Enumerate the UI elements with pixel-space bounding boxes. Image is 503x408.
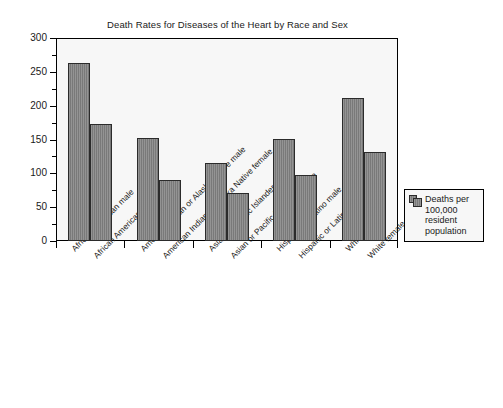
x-axis-labels: African American maleAfrican American fe… <box>0 241 503 408</box>
bar <box>159 180 181 241</box>
bar <box>205 163 227 241</box>
bar <box>68 63 90 241</box>
bar <box>227 193 249 241</box>
y-axis-tick-label: 150 <box>7 135 47 145</box>
bar <box>90 124 112 241</box>
bar <box>342 98 364 241</box>
bar <box>295 175 317 241</box>
bar-swatch-icon <box>409 195 422 207</box>
legend: Deaths per 100,000 resident population <box>404 189 484 242</box>
legend-label: Deaths per 100,000 resident population <box>425 194 469 236</box>
bars-layer <box>56 38 398 241</box>
y-axis-tick-label: 300 <box>7 33 47 43</box>
y-axis-tick-label: 100 <box>7 168 47 178</box>
y-axis-tick-label: 50 <box>7 202 47 212</box>
chart-title: Death Rates for Diseases of the Heart by… <box>56 19 399 31</box>
bar <box>137 138 159 241</box>
bar <box>364 152 386 241</box>
y-axis-tick-label: 200 <box>7 101 47 111</box>
bar <box>273 139 295 241</box>
chart-figure: Death Rates for Diseases of the Heart by… <box>0 0 503 408</box>
y-axis-tick-label: 250 <box>7 67 47 77</box>
